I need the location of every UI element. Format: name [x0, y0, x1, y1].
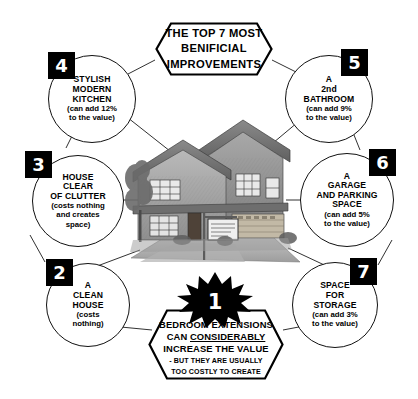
item-3-number-badge: 3 [25, 151, 52, 178]
title-line-1: THE TOP 7 MOST [165, 26, 262, 41]
item-4-head-3: KITCHEN [67, 95, 117, 105]
item-1-line-2-prefix: CAN [167, 331, 190, 342]
item-6-number-badge: 6 [369, 149, 396, 176]
item-2-text: A CLEAN HOUSE (costs nothing) [68, 281, 107, 328]
title-hexagon: THE TOP 7 MOST BENIFICIAL IMPROVEMENTS [155, 22, 273, 76]
item-3-sub-2: and creates [50, 211, 105, 220]
item-7-number-badge: 7 [350, 258, 377, 285]
item-1-number: 1 [177, 272, 253, 328]
item-4-number-badge: 4 [48, 52, 75, 79]
item-4-sub-2: to the value) [67, 114, 117, 123]
item-7-sub-2: to the value) [312, 320, 358, 329]
item-1-line-2: CAN CONSIDERABLY [167, 331, 266, 343]
item-2-number-badge: 2 [46, 259, 73, 286]
item-2-sub-2: nothing) [72, 320, 103, 329]
item-3-sub-3: space) [50, 221, 105, 230]
item-1-line-3: INCREASE THE VALUE [163, 343, 268, 355]
item-6-sub-1: (can add 5% [316, 211, 377, 220]
item-7-head-3: STORAGE [312, 301, 358, 311]
item-5-head-3: BATHROOM [304, 95, 355, 105]
item-5-number-badge: 5 [341, 49, 368, 76]
infographic-canvas: THE TOP 7 MOST BENIFICIAL IMPROVEMENTS S… [0, 0, 418, 399]
item-4-text: STYLISH MODERN KITCHEN (can add 12% to t… [63, 75, 121, 122]
item-1-note-2: TOO COSTLY TO CREATE [171, 368, 261, 377]
item-5-text: A 2nd BATHROOM (can add 9% to the value) [300, 75, 359, 122]
item-5-sub-2: to the value) [304, 114, 355, 123]
item-1-note-1: - BUT THEY ARE USUALLY [169, 357, 262, 366]
item-6-text: A GARAGE AND PARKING SPACE (can add 5% t… [312, 172, 381, 229]
title-line-3: IMPROVEMENTS [167, 57, 261, 72]
item-7-text: SPACE FOR STORAGE (can add 3% to the val… [308, 281, 362, 328]
item-3-text: HOUSE CLEAR OF CLUTTER (costs nothing an… [46, 173, 109, 230]
item-6-head-4: SPACE [316, 200, 377, 210]
item-6-sub-2: to the value) [316, 220, 377, 229]
title-line-2: BENIFICIAL [181, 41, 247, 56]
item-1-starburst: 1 [177, 272, 253, 328]
item-2-head-3: HOUSE [72, 301, 103, 311]
item-1-emphasis: CONSIDERABLY [190, 331, 265, 342]
